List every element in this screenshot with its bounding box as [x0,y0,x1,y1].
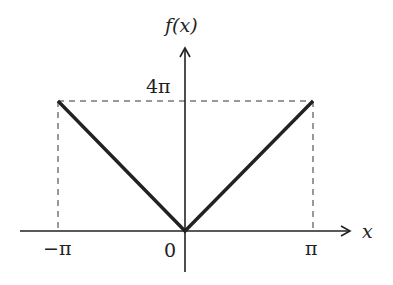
x-axis-label: x [362,220,373,242]
x-tick-neg-pi: −π [43,237,71,259]
x-tick-zero: 0 [164,239,176,261]
y-tick-label: 4π [146,75,171,97]
x-tick-pi: π [305,237,318,259]
y-axis-label: f(x) [163,14,198,36]
function-plot: f(x) 4π x −π 0 π [0,0,393,285]
